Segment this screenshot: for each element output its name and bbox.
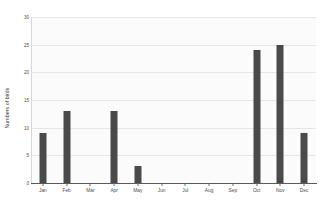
x-tick-mark [161, 183, 162, 186]
x-tick-slot: Jan [31, 183, 55, 203]
x-axis-tick-label: Aug [205, 188, 214, 193]
x-axis-tick-label: Jul [182, 188, 188, 193]
x-tick-slot: Jul [174, 183, 198, 203]
x-axis-tick-label: Mar [86, 188, 94, 193]
x-tick-mark [185, 183, 186, 186]
bar [111, 111, 118, 183]
bar [301, 133, 308, 183]
bar [253, 50, 260, 183]
bar-slot [79, 17, 103, 183]
y-axis-tick-label: 15 [3, 98, 29, 103]
x-tick-mark [209, 183, 210, 186]
x-axis-tick-label: Dec [300, 188, 309, 193]
bar-slot [126, 17, 150, 183]
x-axis-tick-label: May [133, 188, 142, 193]
x-tick-mark [256, 183, 257, 186]
y-axis-tick-label: 25 [3, 42, 29, 47]
x-tick-mark [137, 183, 138, 186]
y-axis-tick-label: 5 [3, 153, 29, 158]
x-axis-tick-label: Feb [62, 188, 70, 193]
y-axis-tick-label: 10 [3, 125, 29, 130]
bar-slot [55, 17, 79, 183]
bar-slot [221, 17, 245, 183]
bar-slot [102, 17, 126, 183]
bar-slot [245, 17, 269, 183]
bar-slot [174, 17, 198, 183]
x-tick-slot: Jun [150, 183, 174, 203]
bar [39, 133, 46, 183]
x-tick-mark [66, 183, 67, 186]
bar-slot [292, 17, 316, 183]
x-tick-slot: Aug [197, 183, 221, 203]
y-axis-tick-labels: 051015202530 [0, 17, 29, 183]
y-axis-tick-label: 20 [3, 70, 29, 75]
x-tick-mark [304, 183, 305, 186]
x-axis-tick-labels: JanFebMarAprMayJunJulAugSepOctNovDec [31, 183, 316, 203]
x-tick-slot: Mar [79, 183, 103, 203]
bar [134, 166, 141, 183]
x-tick-mark [42, 183, 43, 186]
x-tick-slot: Oct [245, 183, 269, 203]
x-axis-tick-label: Nov [276, 188, 285, 193]
x-tick-slot: May [126, 183, 150, 203]
bar-chart: Numbers of birds 051015202530 JanFebMarA… [0, 0, 320, 216]
bar-slot [197, 17, 221, 183]
bar [277, 45, 284, 183]
x-axis-tick-label: Apr [110, 188, 117, 193]
x-axis-tick-label: Oct [253, 188, 260, 193]
x-axis-tick-label: Jun [158, 188, 166, 193]
x-axis-tick-label: Jan [39, 188, 47, 193]
y-axis-tick-label: 0 [3, 181, 29, 186]
x-tick-mark [232, 183, 233, 186]
x-tick-slot: Dec [292, 183, 316, 203]
x-tick-mark [280, 183, 281, 186]
x-tick-slot: Apr [102, 183, 126, 203]
x-axis-tick-label: Sep [229, 188, 238, 193]
bar [63, 111, 70, 183]
x-tick-slot: Nov [269, 183, 293, 203]
bars-layer [31, 17, 316, 183]
bar-slot [31, 17, 55, 183]
bar-slot [150, 17, 174, 183]
x-tick-mark [114, 183, 115, 186]
x-tick-slot: Sep [221, 183, 245, 203]
x-tick-slot: Feb [55, 183, 79, 203]
y-axis-tick-label: 30 [3, 15, 29, 20]
bar-slot [269, 17, 293, 183]
x-tick-mark [90, 183, 91, 186]
